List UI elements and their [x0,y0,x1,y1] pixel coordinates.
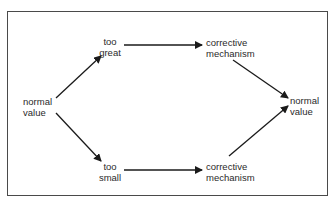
node-too-great: too great [96,36,124,58]
node-corrective-bottom-line1: corrective [206,161,255,172]
node-corrective-top: corrective mechanism [206,37,255,59]
node-too-small-line2: small [96,172,124,183]
node-too-small-line1: too [96,161,124,172]
arrow-corrective-top-to-end [233,60,288,98]
node-corrective-top-line1: corrective [206,37,255,48]
node-corrective-bottom: corrective mechanism [206,161,255,183]
node-start-line2: value [23,107,52,118]
node-corrective-bottom-line2: mechanism [206,172,255,183]
node-end-line1: normal [290,95,319,106]
arrow-corrective-bottom-to-end [229,106,288,156]
node-start-line1: normal [23,96,52,107]
node-too-small: too small [96,161,124,183]
node-too-great-line2: great [96,47,124,58]
node-end-line2: value [290,106,319,117]
arrow-start-to-too-small [56,113,101,161]
node-end-normal-value: normal value [290,95,319,117]
node-too-great-line1: too [96,36,124,47]
node-corrective-top-line2: mechanism [206,48,255,59]
arrow-start-to-too-great [56,56,101,98]
node-start-normal-value: normal value [23,96,52,118]
